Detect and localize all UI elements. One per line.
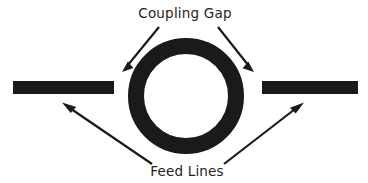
coupling-gap-label: Coupling Gap <box>138 5 231 21</box>
diagram-canvas: Coupling Gap Feed Lines <box>0 0 368 183</box>
feed-line-right <box>262 81 358 94</box>
feed-lines-label: Feed Lines <box>150 163 224 179</box>
feed-line-left <box>13 81 114 94</box>
ring-resonator-figure: Coupling Gap Feed Lines <box>0 0 368 183</box>
